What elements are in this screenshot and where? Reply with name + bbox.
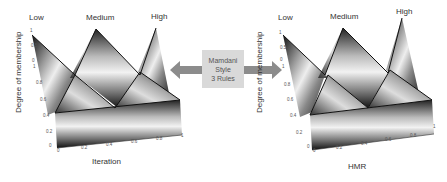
z-tick: 0.6 [40, 97, 46, 102]
z-tick: 0 [49, 143, 52, 148]
low-label: Low [278, 13, 293, 22]
x-axis-label: Iteration [92, 157, 121, 166]
y-axis-label: Degree of membership [14, 32, 23, 113]
low-label: Low [29, 13, 44, 22]
x-tick: 0 [313, 148, 316, 153]
z-tick: 1 [282, 64, 285, 69]
z-tick: 1 [279, 30, 282, 35]
right-surface-graphic [250, 0, 447, 182]
z-tick: 0.8 [284, 82, 290, 87]
x-tick: 0.6 [385, 137, 391, 142]
x-axis-label: HMR [348, 162, 366, 171]
mamdani-box: Mamdani Style 3 Rules [202, 50, 244, 88]
z-tick: 0.8 [36, 80, 42, 85]
left-membership-plot: Low Medium High Degree of membership Ite… [0, 0, 200, 182]
x-tick: 0.2 [336, 145, 342, 150]
z-tick: 0.5 [280, 45, 286, 50]
x-tick: 0.8 [410, 133, 416, 138]
high-label: High [151, 12, 167, 21]
center-line-1: Mamdani [209, 56, 238, 65]
z-tick: 1 [33, 64, 36, 69]
x-tick: 1 [181, 133, 184, 138]
z-tick: 0.6 [287, 97, 293, 102]
z-tick: 0.2 [296, 130, 302, 135]
z-tick: 0.5 [31, 43, 37, 48]
z-tick: 0.2 [46, 129, 52, 134]
y-axis-label: Degree of membership [255, 32, 264, 113]
z-tick: 0.4 [290, 113, 296, 118]
x-tick: 0.4 [106, 142, 112, 147]
x-tick: 0.2 [81, 145, 87, 150]
center-line-3: 3 Rules [211, 74, 235, 83]
z-tick: 0 [307, 144, 310, 149]
z-tick: 0.4 [43, 113, 49, 118]
x-tick: 0.6 [131, 139, 137, 144]
high-label: High [396, 7, 412, 16]
x-tick: 1 [433, 124, 436, 129]
x-tick: 0.8 [156, 136, 162, 141]
medium-label: Medium [330, 12, 358, 21]
medium-label: Medium [86, 13, 114, 22]
x-tick: 0.4 [361, 141, 367, 146]
x-tick: 0 [57, 148, 60, 153]
z-tick: 0 [280, 57, 283, 62]
center-line-2: Style [215, 65, 231, 74]
right-membership-plot: Low Medium High Degree of membership HMR… [250, 0, 447, 182]
z-tick: 1 [30, 28, 33, 33]
z-tick: 0 [32, 58, 35, 63]
